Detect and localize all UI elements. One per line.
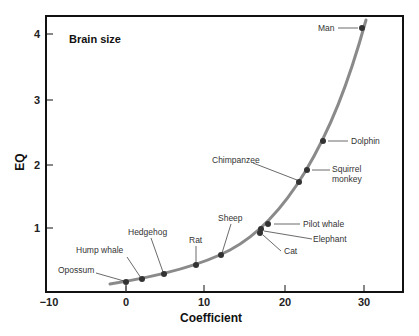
label-elephant: Elephant [313, 234, 347, 244]
point-man [359, 25, 365, 31]
point-chimpanzee [296, 179, 302, 185]
chart-title: Brain size [69, 33, 121, 45]
label-hedgehog: Hedgehog [128, 227, 168, 237]
y-axis-title: EQ [13, 153, 27, 170]
point-opossum [123, 279, 129, 285]
x-tick-minus10: −10 [40, 296, 59, 308]
point-sheep [218, 252, 224, 258]
label-sheep: Sheep [218, 213, 243, 223]
point-dolphin [320, 138, 326, 144]
point-hedgehog [161, 271, 167, 277]
label-squirrel-monkey-line2: monkey [332, 174, 363, 184]
y-tick-3: 3 [34, 94, 40, 106]
label-opossum: Opossum [58, 265, 94, 275]
trend-curve [110, 20, 366, 284]
x-tick-0: 0 [123, 296, 129, 308]
x-tick-20: 20 [279, 296, 291, 308]
label-cat: Cat [284, 246, 298, 256]
label-chimpanzee: Chimpanzee [212, 155, 260, 165]
y-tick-2: 2 [34, 159, 40, 171]
y-tick-1: 1 [34, 222, 40, 234]
label-pilot-whale: Pilot whale [303, 219, 344, 229]
point-pilot-whale [265, 221, 271, 227]
point-labels: Opossum Hump whale Hedgehog Rat Sheep Pi… [58, 23, 380, 275]
point-elephant [258, 226, 264, 232]
label-hump-whale: Hump whale [76, 245, 124, 255]
x-tick-10: 10 [198, 296, 210, 308]
point-squirrel-monkey [304, 167, 310, 173]
x-axis-title: Coefficient [180, 311, 242, 325]
point-hump-whale [139, 276, 145, 282]
label-dolphin: Dolphin [351, 136, 380, 146]
label-man: Man [318, 23, 335, 33]
point-rat [193, 262, 199, 268]
eq-chart: 4 3 2 1 EQ −10 0 10 20 30 Coefficient Br… [0, 0, 419, 336]
label-squirrel-monkey-line1: Squirrel [332, 164, 361, 174]
label-rat: Rat [189, 235, 203, 245]
x-tick-30: 30 [358, 296, 370, 308]
y-tick-4: 4 [34, 28, 41, 40]
